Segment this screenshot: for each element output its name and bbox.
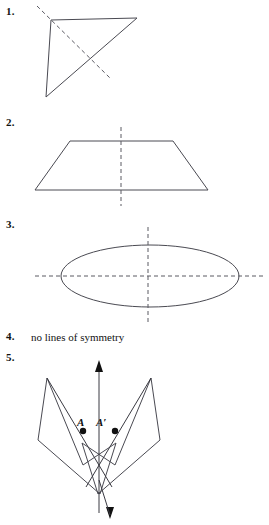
figure-3-ellipse-group (35, 227, 263, 323)
point-a-dot (80, 428, 86, 434)
figure-2-trapezoid-group (35, 127, 208, 206)
image-polygon (82, 378, 160, 494)
answer-text-4: no lines of symmetry (31, 331, 124, 343)
item-number-1: 1. (6, 6, 15, 17)
ellipse-shape (61, 245, 239, 307)
preimage-polygon (38, 378, 116, 494)
line-of-reflection-lower-segment (99, 480, 110, 515)
symmetry-line-1 (37, 6, 111, 79)
reflection-line-arrow-up-icon (95, 360, 103, 372)
point-a-label: A (77, 417, 84, 428)
figures-layer (0, 0, 269, 525)
answer-sheet: 1. 2. 3. 4. 5. no lines of symmetry A A′ (0, 0, 269, 525)
item-number-3: 3. (6, 219, 15, 230)
trapezoid-shape (35, 141, 208, 190)
triangle-shape (46, 18, 137, 97)
point-a-prime-label: A′ (96, 417, 106, 428)
figure-5-reflection-group (38, 360, 160, 519)
point-a-prime-dot (112, 428, 118, 434)
reflection-line-arrow-down-icon (106, 507, 114, 519)
item-number-4: 4. (6, 331, 15, 342)
correspondence-segment-2 (86, 378, 151, 487)
figure-1-triangle-group (37, 6, 137, 97)
item-number-5: 5. (6, 352, 15, 363)
correspondence-segment-1 (47, 378, 112, 487)
item-number-2: 2. (6, 117, 15, 128)
